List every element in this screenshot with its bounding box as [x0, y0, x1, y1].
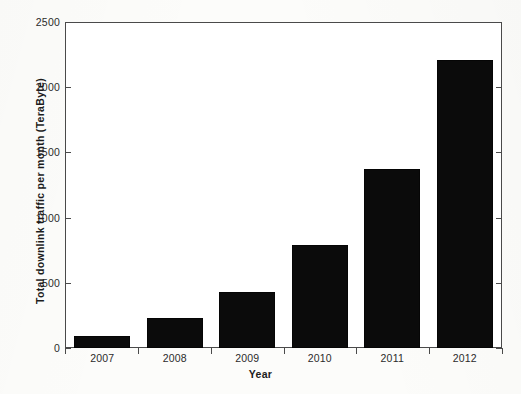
right-tick-mark [496, 283, 502, 284]
x-axis-title: Year [0, 368, 521, 380]
y-tick-label: 2500 [20, 16, 60, 28]
bar-slot-2009 [211, 23, 284, 348]
right-tick-mark [496, 87, 502, 88]
x-tick-label: 2010 [284, 352, 357, 364]
bar-2010[interactable] [292, 245, 348, 348]
x-tick-mark [502, 348, 503, 354]
y-tick-mark [65, 87, 71, 88]
right-tick-mark [496, 22, 502, 23]
x-tick-label: 2009 [211, 352, 284, 364]
bar-slot-2012 [429, 23, 502, 348]
right-tick-mark [496, 218, 502, 219]
y-tick-mark [65, 283, 71, 284]
bar-2007[interactable] [74, 336, 130, 348]
right-tick-mark [496, 152, 502, 153]
bar-slot-2007 [66, 23, 139, 348]
bar-slot-2011 [356, 23, 429, 348]
y-axis-title: Total downlink traffic per month (TeraBy… [34, 31, 46, 351]
x-tick-label: 2011 [356, 352, 429, 364]
x-tick-label: 2012 [429, 352, 502, 364]
bar-series-group [66, 23, 501, 348]
bar-slot-2008 [139, 23, 212, 348]
y-tick-mark [65, 218, 71, 219]
page-background: 05001000150020002500 2007200820092010201… [0, 0, 521, 394]
bar-slot-2010 [284, 23, 357, 348]
bar-2009[interactable] [219, 292, 275, 348]
bar-2008[interactable] [147, 318, 203, 348]
x-tick-label: 2007 [66, 352, 139, 364]
y-tick-mark [65, 152, 71, 153]
y-tick-mark [65, 22, 71, 23]
bar-2012[interactable] [437, 60, 493, 348]
bar-chart-figure: 05001000150020002500 2007200820092010201… [0, 0, 521, 394]
x-axis-tick-labels: 200720082009201020112012 [66, 352, 501, 364]
x-tick-label: 2008 [139, 352, 212, 364]
bar-2011[interactable] [364, 169, 420, 348]
